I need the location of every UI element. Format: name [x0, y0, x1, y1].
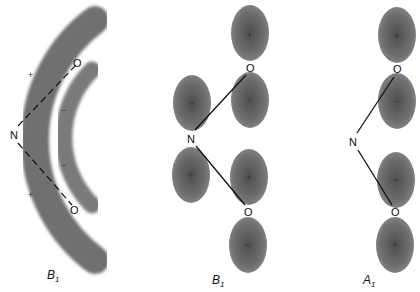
- sign-obot-upper: −: [393, 175, 398, 185]
- sign-obot-upper: +: [246, 172, 251, 182]
- atom-o-top: O: [246, 62, 255, 74]
- panel-atomic-b1: O N O + − − + + − B1: [172, 5, 269, 289]
- atom-o-bottom: O: [244, 206, 253, 218]
- sign-obot-lower: −: [245, 240, 250, 250]
- sign-otop-upper: +: [394, 31, 399, 41]
- atom-o-top: O: [393, 63, 402, 75]
- symmetry-label: B1: [212, 273, 224, 289]
- atom-o-top: O: [73, 57, 82, 69]
- sign-inner-bottom: −: [61, 160, 66, 170]
- orbital-diagram: N O O + + − − B1 O N O + − − + + − B1: [0, 0, 420, 292]
- sign-otop-lower: −: [394, 96, 399, 106]
- panel-delocalized-b1: N O O + + − − B1: [10, 20, 95, 284]
- diagram-canvas: N O O + + − − B1 O N O + − − + + − B1: [0, 0, 420, 292]
- sign-outer-bottom: +: [28, 190, 33, 200]
- atom-o-bottom: O: [391, 206, 400, 218]
- sign-inner-top: −: [61, 105, 66, 115]
- atom-n: N: [349, 136, 357, 148]
- sign-obot-lower: +: [392, 240, 397, 250]
- atom-n: N: [10, 129, 18, 141]
- inner-orbital-band: [64, 70, 92, 205]
- sign-outer-top: +: [28, 70, 33, 80]
- atom-o-bottom: O: [70, 204, 79, 216]
- sign-n-lower: +: [188, 170, 193, 180]
- atom-n: N: [187, 133, 195, 145]
- sign-n-upper: −: [189, 98, 194, 108]
- sign-otop-lower: −: [247, 95, 252, 105]
- symmetry-label: A1: [362, 273, 375, 289]
- panel-atomic-a1: O N O + − − + A1: [349, 7, 416, 289]
- symmetry-label: B1: [47, 268, 59, 284]
- sign-otop-upper: +: [247, 30, 252, 40]
